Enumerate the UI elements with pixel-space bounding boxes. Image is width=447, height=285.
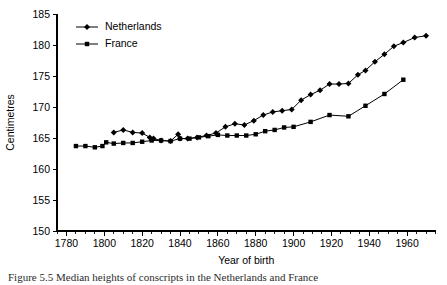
legend-label: France: [105, 37, 138, 49]
series-france: [74, 78, 406, 150]
y-tick-label: 150: [32, 225, 50, 237]
data-point: [254, 132, 258, 136]
data-point: [140, 140, 144, 144]
y-tick-label: 165: [32, 132, 50, 144]
figure-container: 1501551601651701751801851780180018201840…: [0, 0, 447, 285]
data-point: [131, 141, 135, 145]
data-point: [412, 35, 418, 41]
data-point: [308, 120, 312, 124]
data-point: [83, 144, 87, 148]
data-point: [251, 118, 257, 124]
x-tick-label: 1920: [320, 237, 344, 249]
y-tick-label: 175: [32, 70, 50, 82]
series-line: [114, 36, 426, 141]
data-point: [327, 113, 331, 117]
data-point: [317, 87, 323, 93]
data-point: [84, 24, 90, 30]
data-point: [139, 130, 145, 136]
legend-label: Netherlands: [105, 20, 162, 32]
data-point: [260, 112, 266, 118]
data-point: [206, 134, 210, 138]
data-point: [279, 108, 285, 114]
data-point: [401, 78, 405, 82]
x-tick-label: 1780: [55, 237, 79, 249]
data-point: [104, 140, 108, 144]
y-tick-label: 155: [32, 194, 50, 206]
y-axis-title: Centimetres: [4, 94, 16, 151]
data-point: [263, 129, 267, 133]
x-tick-label: 1840: [168, 237, 192, 249]
data-point: [93, 145, 97, 149]
data-point: [74, 144, 78, 148]
x-tick-label: 1820: [130, 237, 154, 249]
data-point: [363, 104, 367, 108]
data-point: [159, 138, 163, 142]
data-point: [308, 92, 314, 98]
data-point: [382, 92, 386, 96]
data-point: [346, 114, 350, 118]
data-point: [244, 133, 248, 137]
data-point: [121, 141, 125, 145]
data-point: [112, 141, 116, 145]
data-point: [178, 136, 182, 140]
data-point: [100, 144, 104, 148]
figure-caption: Figure 5.5 Median heights of conscripts …: [8, 271, 447, 284]
data-point: [235, 133, 239, 137]
data-point: [241, 122, 247, 128]
data-point: [85, 42, 89, 46]
x-tick-label: 1800: [93, 237, 117, 249]
x-axis-title: Year of birth: [218, 254, 274, 266]
y-tick-label: 180: [32, 39, 50, 51]
y-tick-label: 170: [32, 101, 50, 113]
data-point: [232, 121, 238, 127]
x-tick-label: 1960: [395, 237, 419, 249]
data-point: [270, 109, 276, 115]
data-point: [423, 33, 429, 39]
x-tick-label: 1900: [282, 237, 306, 249]
data-point: [187, 136, 191, 140]
data-point: [327, 81, 333, 87]
data-point: [168, 139, 172, 143]
chart-legend: NetherlandsFrance: [76, 20, 162, 49]
series-line: [76, 80, 403, 148]
data-point: [222, 124, 228, 130]
data-point: [336, 81, 342, 87]
data-point: [120, 127, 126, 133]
data-point: [130, 129, 136, 135]
data-point: [272, 128, 276, 132]
data-point: [400, 40, 406, 46]
data-point: [197, 135, 201, 139]
y-tick-label: 160: [32, 163, 50, 175]
data-point: [216, 133, 220, 137]
data-point: [111, 129, 117, 135]
data-point: [149, 138, 153, 142]
line-chart: 1501551601651701751801851780180018201840…: [0, 0, 447, 285]
x-tick-label: 1880: [244, 237, 268, 249]
x-tick-label: 1940: [358, 237, 382, 249]
data-point: [282, 125, 286, 129]
x-tick-label: 1860: [206, 237, 230, 249]
series-netherlands: [111, 33, 429, 144]
y-tick-label: 185: [32, 8, 50, 20]
data-point: [225, 133, 229, 137]
data-point: [291, 125, 295, 129]
